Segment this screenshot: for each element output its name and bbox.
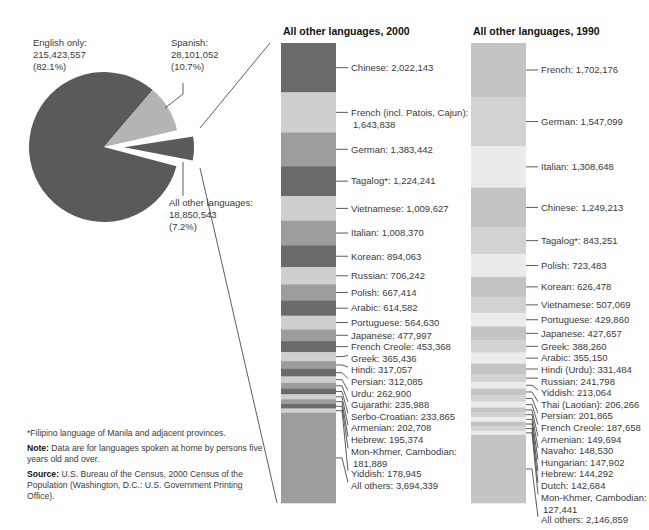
segment-label: Tagalog*: 843,251 [541, 235, 618, 246]
bar-segment [471, 43, 526, 97]
segment-label: Serbo-Croatian: 233,865 [351, 411, 455, 422]
segment-label: Hindi (Urdu): 331,484 [541, 364, 632, 375]
bar-segment [471, 395, 526, 402]
segment-label: Portuguese: 564,630 [351, 317, 439, 328]
segment-label: Hindi: 317,057 [351, 364, 412, 375]
bar-segment [471, 254, 526, 277]
segment-label: French Creole: 187,658 [541, 422, 641, 433]
bar-segment [281, 267, 336, 285]
spanish-leader [165, 83, 183, 108]
segment-label: Arabic: 355,150 [541, 352, 608, 363]
segment-label: Vietnamese: 507,069 [541, 299, 631, 310]
segment-label: Persian: 312,085 [351, 376, 423, 387]
bar-segment [281, 245, 336, 267]
bar-segment [471, 277, 526, 297]
label-leader [336, 411, 348, 471]
bar-segment [471, 431, 526, 435]
bar-segment [471, 146, 526, 188]
segment-label: German: 1,383,442 [351, 144, 433, 155]
segment-label: Greek: 388,260 [541, 341, 607, 352]
segment-label: Thai (Laotian): 206,266 [541, 399, 639, 410]
bar-segment [471, 327, 526, 341]
label-leader [526, 385, 538, 390]
segment-label: Hebrew: 144,292 [541, 468, 613, 479]
bar-segment [471, 97, 526, 146]
segment-label: Dutch: 142,684 [541, 480, 605, 491]
bar-segment [281, 341, 336, 352]
note-text: Note: Data are for languages spoken at h… [27, 443, 267, 465]
segment-label: Chinese: 1,249,213 [541, 202, 623, 213]
bar-segment [471, 297, 526, 313]
segment-label: Persian: 201,865 [541, 410, 613, 421]
segment-label: French (incl. Patois, Cajun):1,643,838 [351, 107, 468, 130]
label-leader [336, 380, 348, 391]
bar-segment [471, 352, 526, 364]
bar-segment [281, 132, 336, 166]
stacked-bar-1990: French: 1,702,176German: 1,547,099Italia… [471, 43, 647, 525]
bar-1990-title: All other languages, 1990 [473, 25, 600, 37]
segment-label: Russian: 241,798 [541, 376, 615, 387]
segment-label: Vietnamese: 1,009,627 [351, 203, 449, 214]
label-leader [526, 410, 538, 436]
bar-segment [471, 313, 526, 327]
label-leader [336, 386, 348, 402]
footnote: *Filipino language of Manila and adjacen… [27, 428, 267, 439]
bar-segment [281, 284, 336, 301]
stacked-bar-2000: Chinese: 2,022,143French (incl. Patois, … [281, 43, 468, 503]
bar-segment [281, 408, 336, 413]
segment-label: Yiddish: 213,064 [541, 387, 611, 398]
label-leader [336, 458, 348, 483]
bar-segment [281, 376, 336, 383]
bar-segment [281, 221, 336, 246]
bar-segment [281, 166, 336, 196]
segment-label: All others: 2,146,859 [541, 514, 628, 525]
bar-segment [281, 413, 336, 503]
label-leader [336, 373, 348, 379]
bar-segment [281, 329, 336, 341]
segment-label: Tagalog*: 1,224,241 [351, 175, 436, 186]
bar-segment [281, 361, 336, 369]
segment-label: Hebrew: 195,374 [351, 434, 423, 445]
label-leader [526, 392, 538, 402]
segment-label: Korean: 894,063 [351, 251, 421, 262]
bar-segment [471, 382, 526, 389]
segment-label: Polish: 723,483 [541, 260, 607, 271]
bar-segment [471, 422, 526, 427]
segment-label: Yiddish: 178,945 [351, 468, 421, 479]
segment-label: Mon-Khmer, Cambodian:127,441 [541, 492, 647, 515]
segment-label: Russian: 706,242 [351, 270, 425, 281]
segment-label: Italian: 1,308,648 [541, 161, 614, 172]
segment-label: Japanese: 427,657 [541, 328, 622, 339]
segment-label: Gujarathi: 235,988 [351, 399, 429, 410]
segment-label: Korean: 626,478 [541, 281, 611, 292]
segment-label: Japanese: 477,997 [351, 330, 432, 341]
bar-segment [281, 369, 336, 377]
bar-segment [471, 374, 526, 382]
bar-segment [471, 408, 526, 413]
segment-label: Mon-Khmer, Cambodian:181,889 [351, 446, 457, 469]
source-text: Source: U.S. Bureau of the Census, 2000 … [27, 469, 267, 502]
segment-label: Urdu: 262,900 [351, 388, 411, 399]
spanish-label: Spanish:28,101,052(10.7%) [171, 37, 219, 72]
segment-label: Navaho: 148,530 [541, 445, 613, 456]
segment-label: French Creole: 453,368 [351, 341, 451, 352]
segment-label: Hungarian: 147,902 [541, 457, 624, 468]
bar-segment [471, 435, 526, 503]
segment-label: Chinese: 2,022,143 [351, 62, 433, 73]
segment-label: All others: 3,694,339 [351, 480, 438, 491]
bar-segment [471, 402, 526, 408]
bar-2000-title: All other languages, 2000 [283, 25, 410, 37]
segment-label: Arabic: 614,582 [351, 302, 418, 313]
segment-label: Polish: 667,414 [351, 287, 417, 298]
bar-segment [281, 43, 336, 93]
bar-segment [281, 92, 336, 132]
segment-label: Italian: 1,008,370 [351, 227, 424, 238]
bar-segment [471, 188, 526, 228]
bar-segment [471, 389, 526, 396]
segment-label: Portuguese: 429,860 [541, 314, 629, 325]
bar-segment [471, 417, 526, 422]
segment-label: French: 1,702,176 [541, 64, 618, 75]
bar-segment [281, 316, 336, 330]
bar-segment [281, 394, 336, 399]
bar-segment [471, 340, 526, 353]
